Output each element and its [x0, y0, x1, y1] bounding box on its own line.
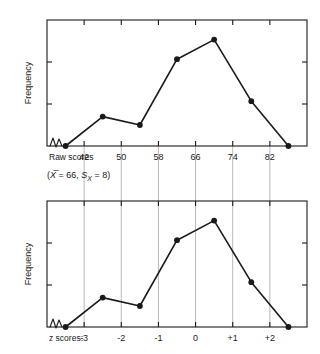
x-tick-label-66: 66 [191, 152, 201, 162]
data-point-raw-score-polygon-4 [211, 37, 217, 43]
data-point-z-score-polygon-1 [100, 295, 106, 301]
frequency-polygon-line-z-score-polygon [66, 221, 289, 327]
data-point-z-score-polygon-4 [211, 218, 217, 224]
data-point-z-score-polygon-2 [137, 303, 143, 309]
plot-frame-z-score-polygon [47, 201, 307, 327]
data-point-raw-score-polygon-0 [63, 143, 69, 149]
y-axis-title-z-score-polygon: Frequency [23, 242, 33, 285]
data-point-raw-score-polygon-2 [137, 122, 143, 128]
frequency-polygon-line-raw-score-polygon [66, 40, 289, 146]
x-tick-label--1: -1 [154, 333, 162, 343]
x-tick-label--2: -2 [117, 333, 125, 343]
y-axis-title-raw-score-polygon: Frequency [23, 61, 33, 104]
data-point-raw-score-polygon-5 [248, 98, 254, 104]
data-point-raw-score-polygon-6 [286, 143, 292, 149]
x-tick-label-0: 0 [193, 333, 198, 343]
x-tick-label-82: 82 [265, 152, 275, 162]
mean-and-sd-annotation: (X̅ = 66, SX = 8) [47, 170, 110, 182]
note-sd-equals: = 8) [92, 170, 110, 180]
data-point-raw-score-polygon-3 [174, 56, 180, 62]
data-point-z-score-polygon-0 [63, 324, 69, 330]
note-mean-equals: = 66, [56, 170, 81, 180]
figure-container: 425058667482Raw scoresFrequency-3-2-10+1… [0, 0, 320, 354]
x-axis-name-z-score-polygon: z scores: [49, 333, 83, 343]
x-tick-label-+1: +1 [228, 333, 238, 343]
data-point-raw-score-polygon-1 [100, 114, 106, 120]
x-axis-name-raw-score-polygon: Raw scores [49, 152, 93, 162]
data-point-z-score-polygon-3 [174, 237, 180, 243]
x-tick-label-58: 58 [153, 152, 163, 162]
data-point-z-score-polygon-6 [286, 324, 292, 330]
two-panel-frequency-polygon-figure: 425058667482Raw scoresFrequency-3-2-10+1… [0, 0, 320, 354]
data-point-z-score-polygon-5 [248, 279, 254, 285]
x-tick-label-74: 74 [228, 152, 238, 162]
x-tick-label-50: 50 [116, 152, 126, 162]
plot-frame-raw-score-polygon [47, 20, 307, 146]
x-tick-label-+2: +2 [265, 333, 275, 343]
